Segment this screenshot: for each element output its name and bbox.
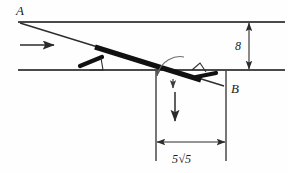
label-vertical-dimension: 8 (235, 39, 241, 53)
svg-text:5√5: 5√5 (172, 152, 191, 166)
left-slider-bar (80, 57, 102, 66)
diagram-canvas: A B 8 5√5 (0, 0, 288, 173)
label-horizontal-dimension-radical: √5 (179, 152, 192, 166)
left-slider-block (80, 57, 103, 70)
label-horizontal-dimension-coefficient: 5 (172, 152, 178, 166)
label-point-a: A (15, 3, 24, 18)
mechanics-diagram: A B 8 5√5 (0, 0, 288, 173)
label-point-b: B (231, 81, 239, 96)
label-horizontal-dimension: 5√5 (172, 152, 191, 166)
right-slider-bar (196, 73, 216, 77)
rod-bar (95, 47, 201, 80)
